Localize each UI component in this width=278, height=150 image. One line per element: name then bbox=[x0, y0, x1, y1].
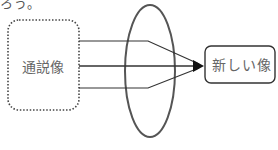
source-box-label: 通説像 bbox=[22, 56, 64, 76]
arrow-line-top bbox=[79, 41, 199, 64]
target-box-label: 新しい像 bbox=[212, 54, 272, 74]
arrow-head-icon bbox=[193, 60, 204, 72]
lens-ellipse bbox=[125, 5, 175, 137]
arrow-line-bottom bbox=[79, 68, 199, 88]
